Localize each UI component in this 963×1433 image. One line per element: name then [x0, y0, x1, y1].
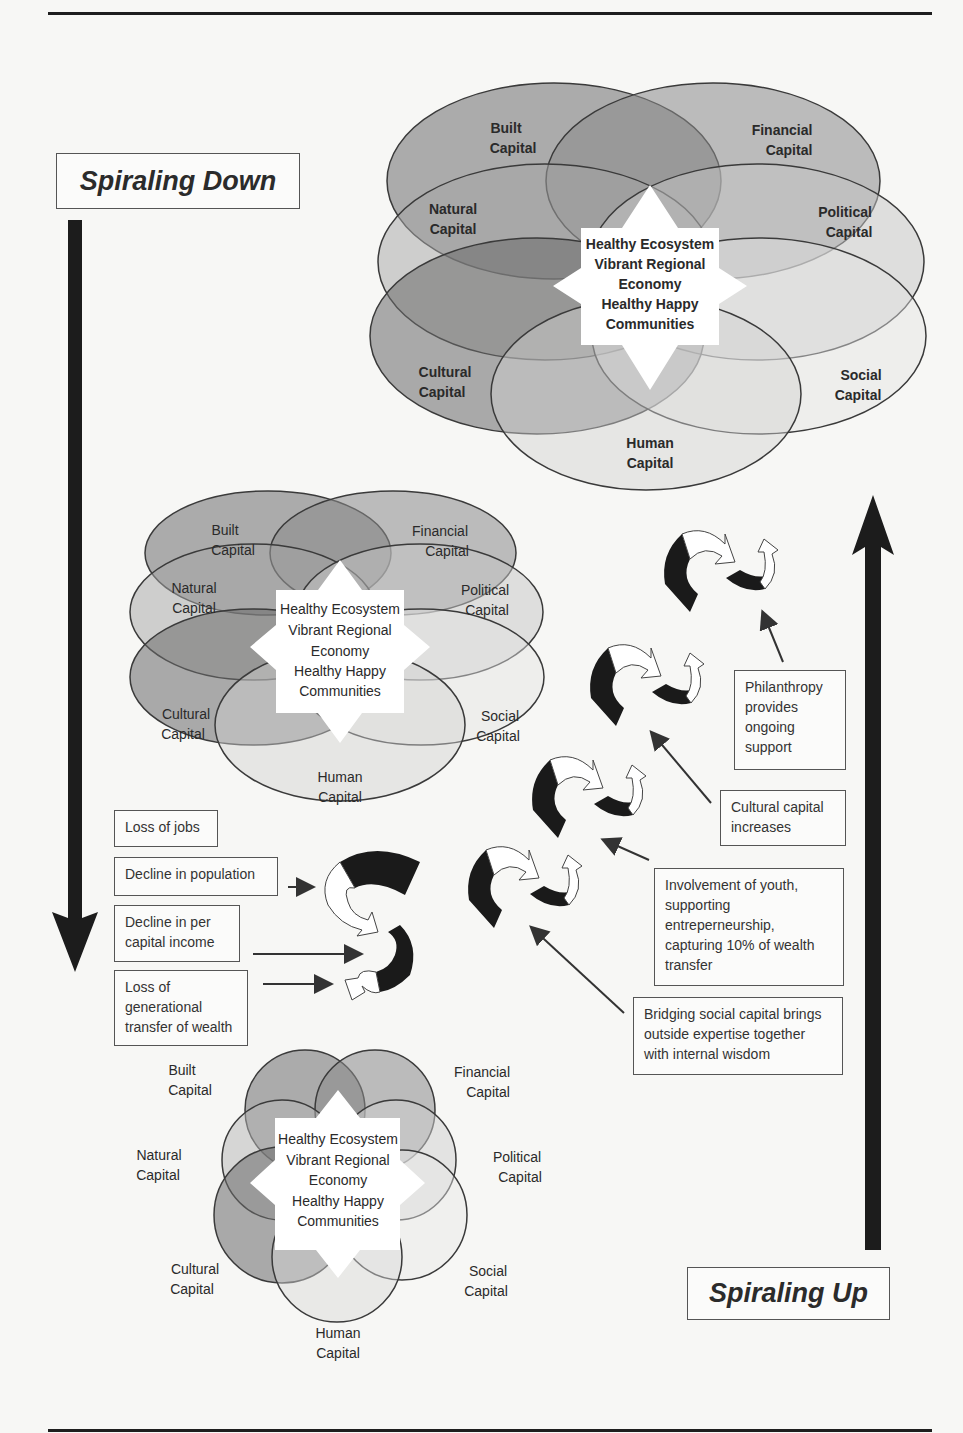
svg-text:Capital: Capital — [211, 542, 255, 558]
svg-text:Political: Political — [461, 582, 509, 598]
svg-text:Healthy Ecosystem: Healthy Ecosystem — [280, 601, 400, 617]
svg-text:Natural: Natural — [171, 580, 216, 596]
svg-text:Capital: Capital — [318, 789, 362, 805]
svg-text:Capital: Capital — [172, 600, 216, 616]
svg-text:Cultural: Cultural — [171, 1261, 219, 1277]
svg-text:Social: Social — [840, 367, 881, 383]
svg-text:Capital: Capital — [316, 1345, 360, 1361]
svg-text:Political: Political — [818, 204, 872, 220]
svg-text:Cultural: Cultural — [162, 706, 210, 722]
svg-text:Capital: Capital — [766, 142, 813, 158]
svg-text:Vibrant Regional: Vibrant Regional — [288, 622, 391, 638]
svg-text:Capital: Capital — [136, 1167, 180, 1183]
svg-text:Capital: Capital — [498, 1169, 542, 1185]
svg-text:Financial: Financial — [752, 122, 813, 138]
svg-text:Capital: Capital — [826, 224, 873, 240]
svg-text:Capital: Capital — [627, 455, 674, 471]
decline-factor-population: Decline in population — [114, 857, 278, 896]
svg-text:Healthy Happy: Healthy Happy — [294, 663, 386, 679]
svg-text:Political: Political — [493, 1149, 541, 1165]
svg-text:Vibrant Regional: Vibrant Regional — [286, 1152, 389, 1168]
spiral-up-arrow-icon — [852, 495, 894, 1250]
svg-text:Human: Human — [626, 435, 673, 451]
svg-text:Built: Built — [490, 120, 521, 136]
growth-factor-bridging: Bridging social capital brings outside e… — [633, 997, 843, 1075]
svg-text:Natural: Natural — [136, 1147, 181, 1163]
svg-text:Communities: Communities — [299, 683, 381, 699]
svg-text:Capital: Capital — [466, 1084, 510, 1100]
svg-text:Built: Built — [211, 522, 238, 538]
svg-text:Healthy Ecosystem: Healthy Ecosystem — [278, 1131, 398, 1147]
svg-text:Vibrant Regional: Vibrant Regional — [595, 256, 706, 272]
svg-text:Human: Human — [315, 1325, 360, 1341]
svg-text:Human: Human — [317, 769, 362, 785]
svg-text:Communities: Communities — [297, 1213, 379, 1229]
svg-text:Social: Social — [481, 708, 519, 724]
svg-text:Capital: Capital — [490, 140, 537, 156]
svg-text:Healthy Ecosystem: Healthy Ecosystem — [586, 236, 714, 252]
svg-text:Capital: Capital — [419, 384, 466, 400]
growth-factor-youth: Involvement of youth, supporting entrepe… — [654, 868, 844, 986]
spiraling-down-label: Spiraling Down — [56, 153, 300, 209]
svg-text:Economy: Economy — [618, 276, 681, 292]
svg-text:Healthy Happy: Healthy Happy — [292, 1193, 384, 1209]
decline-factor-loss-of-jobs: Loss of jobs — [114, 810, 218, 847]
svg-text:Capital: Capital — [430, 221, 477, 237]
svg-text:Built: Built — [168, 1062, 195, 1078]
svg-text:Financial: Financial — [454, 1064, 510, 1080]
growth-factor-cultural-capital: Cultural capital increases — [720, 790, 846, 846]
svg-text:Natural: Natural — [429, 201, 477, 217]
svg-text:Capital: Capital — [465, 602, 509, 618]
decline-factor-income: Decline in per capital income — [114, 905, 240, 962]
svg-text:Capital: Capital — [476, 728, 520, 744]
svg-text:Communities: Communities — [606, 316, 695, 332]
svg-text:Financial: Financial — [412, 523, 468, 539]
decline-factor-wealth-transfer: Loss of generational transfer of wealth — [114, 970, 248, 1046]
spiraling-up-label: Spiraling Up — [687, 1267, 890, 1320]
svg-text:Healthy Happy: Healthy Happy — [601, 296, 698, 312]
svg-text:Capital: Capital — [168, 1082, 212, 1098]
spiral-down-arrow-icon — [52, 220, 98, 972]
svg-text:Capital: Capital — [464, 1283, 508, 1299]
svg-text:Economy: Economy — [309, 1172, 367, 1188]
svg-text:Cultural: Cultural — [419, 364, 472, 380]
svg-text:Capital: Capital — [170, 1281, 214, 1297]
svg-text:Social: Social — [469, 1263, 507, 1279]
svg-text:Economy: Economy — [311, 643, 369, 659]
svg-text:Capital: Capital — [835, 387, 882, 403]
svg-text:Capital: Capital — [161, 726, 205, 742]
down-spiral-arrows-icon — [325, 851, 420, 1000]
growth-factor-philanthropy: Philanthropy provides ongoing support — [734, 670, 846, 770]
svg-text:Capital: Capital — [425, 543, 469, 559]
